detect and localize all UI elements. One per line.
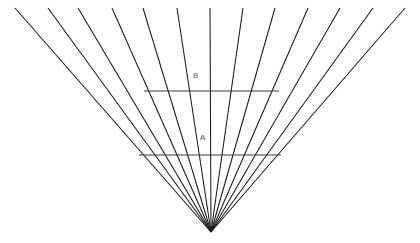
transversal-label-b: B	[193, 72, 199, 80]
fan-line-2	[48, 8, 211, 232]
fan-line-7	[210, 8, 211, 232]
fan-line-8	[211, 8, 243, 232]
ponzo-illusion-figure: B A	[0, 0, 420, 243]
fan-line-12	[211, 8, 373, 232]
transversal-label-a: A	[200, 134, 206, 142]
fan-line-4	[112, 8, 211, 232]
fan-line-9	[211, 8, 275, 232]
figure-vector-canvas	[0, 0, 420, 243]
fan-line-13	[211, 8, 405, 232]
fan-line-group	[15, 8, 405, 232]
fan-line-5	[143, 8, 211, 232]
fan-line-3	[78, 8, 211, 232]
fan-line-10	[211, 8, 308, 232]
fan-line-11	[211, 8, 340, 232]
